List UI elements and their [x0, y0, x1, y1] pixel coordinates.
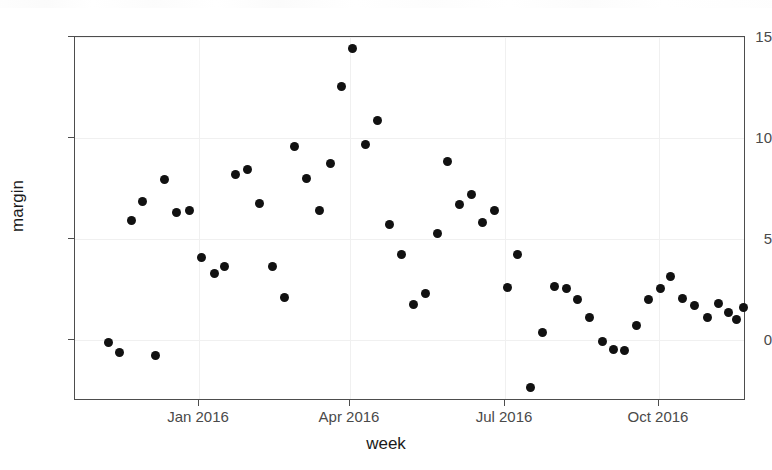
gridline-vertical [505, 37, 506, 399]
data-point [421, 289, 430, 298]
y-axis-tick-label: 0 [710, 331, 772, 348]
data-point [151, 351, 160, 360]
data-point [513, 250, 522, 259]
data-point [172, 208, 181, 217]
data-point [337, 82, 346, 91]
data-point [585, 313, 594, 322]
data-point [127, 216, 136, 225]
data-point [714, 299, 723, 308]
data-point [160, 175, 169, 184]
x-axis-tick [198, 400, 199, 406]
y-axis-tick-label: 5 [710, 230, 772, 247]
scan-artifact-band [0, 0, 772, 8]
data-point [280, 293, 289, 302]
data-point [243, 165, 252, 174]
y-axis-tick [68, 339, 74, 340]
x-axis-tick [504, 400, 505, 406]
data-point [573, 295, 582, 304]
x-axis-tick-label: Oct 2016 [628, 408, 689, 425]
data-point [385, 220, 394, 229]
x-axis-tick-label: Jul 2016 [476, 408, 533, 425]
data-point [666, 272, 675, 281]
data-point [115, 348, 124, 357]
y-axis-tick-label: 10 [710, 129, 772, 146]
data-point [732, 315, 741, 324]
data-point [361, 140, 370, 149]
data-point [302, 174, 311, 183]
x-axis-tick [349, 400, 350, 406]
data-point [443, 157, 452, 166]
scatter-plot-figure: 151050 Jan 2016Apr 2016Jul 2016Oct 2016 … [0, 0, 772, 470]
data-point [409, 300, 418, 309]
data-point [703, 313, 712, 322]
data-point [490, 206, 499, 215]
data-point [562, 284, 571, 293]
data-point [467, 190, 476, 199]
data-point [210, 269, 219, 278]
y-axis-tick [68, 36, 74, 37]
y-axis-tick [68, 238, 74, 239]
data-point [348, 44, 357, 53]
gridline-horizontal [75, 239, 744, 240]
data-point [197, 253, 206, 262]
data-point [397, 250, 406, 259]
data-point [268, 262, 277, 271]
data-point [538, 328, 547, 337]
data-point [220, 262, 229, 271]
y-axis-tick-label: 15 [710, 28, 772, 45]
data-point [104, 338, 113, 347]
data-point [678, 294, 687, 303]
x-axis-tick-label: Jan 2016 [167, 408, 229, 425]
data-point [620, 346, 629, 355]
data-point [373, 116, 382, 125]
data-point [632, 321, 641, 330]
data-point [526, 383, 535, 392]
data-point [433, 229, 442, 238]
data-point [690, 301, 699, 310]
gridline-horizontal [75, 37, 744, 38]
data-point [739, 303, 748, 312]
gridline-vertical [659, 37, 660, 399]
data-point [231, 170, 240, 179]
data-point [609, 345, 618, 354]
y-axis-tick [68, 137, 74, 138]
data-point [455, 200, 464, 209]
data-point [644, 295, 653, 304]
gridline-vertical [199, 37, 200, 399]
data-point [185, 206, 194, 215]
data-point [478, 218, 487, 227]
data-point [550, 282, 559, 291]
gridline-horizontal [75, 138, 744, 139]
x-axis-tick-label: Apr 2016 [319, 408, 380, 425]
plot-panel [74, 36, 745, 400]
data-point [315, 206, 324, 215]
y-axis-title: margin [8, 126, 28, 286]
data-point [290, 142, 299, 151]
x-axis-title: week [0, 434, 772, 454]
data-point [656, 284, 665, 293]
data-point [724, 308, 733, 317]
gridline-vertical [350, 37, 351, 399]
x-axis-tick [658, 400, 659, 406]
data-point [598, 337, 607, 346]
data-point [138, 197, 147, 206]
gridline-horizontal [75, 340, 744, 341]
data-point [326, 159, 335, 168]
data-point [255, 199, 264, 208]
data-point [503, 283, 512, 292]
